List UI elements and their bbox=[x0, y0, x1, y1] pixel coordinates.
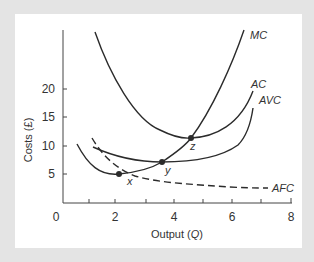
x-tick-label-0: 0 bbox=[53, 210, 60, 224]
x-axis-title: Output (Q) bbox=[151, 228, 203, 240]
x-tick-label-2: 2 bbox=[112, 210, 119, 224]
mc-label: MC bbox=[250, 29, 267, 41]
x-tick-label-6: 6 bbox=[229, 210, 236, 224]
ac-label: AC bbox=[250, 78, 266, 90]
axes bbox=[63, 30, 292, 203]
y-axis-title: Costs (£) bbox=[22, 118, 34, 163]
x-tick-label-4: 4 bbox=[171, 210, 178, 224]
point-x-label: x bbox=[126, 175, 133, 187]
point-y-label: y bbox=[164, 164, 172, 176]
x-tick-label-8: 8 bbox=[288, 210, 295, 224]
afc-curve bbox=[92, 138, 268, 188]
y-tick-label-20: 20 bbox=[42, 82, 56, 96]
y-tick-label-10: 10 bbox=[42, 139, 56, 153]
afc-label: AFC bbox=[271, 182, 294, 194]
avc-label: AVC bbox=[258, 94, 281, 106]
y-tick-label-5: 5 bbox=[48, 167, 55, 181]
point-x-marker bbox=[116, 171, 122, 177]
cost-curves-chart: 20 15 10 5 0 2 4 6 8 Output (Q) Costs (£… bbox=[0, 0, 314, 262]
y-tick-label-15: 15 bbox=[42, 110, 56, 124]
ac-curve bbox=[95, 32, 253, 138]
point-z-label: z bbox=[189, 140, 196, 152]
